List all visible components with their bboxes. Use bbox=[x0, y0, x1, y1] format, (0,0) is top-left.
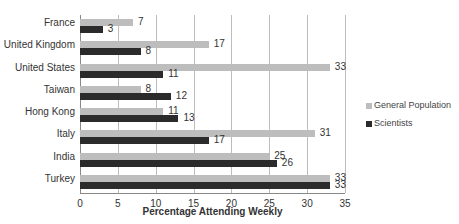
value-label: 17 bbox=[214, 38, 225, 49]
category-label: France bbox=[44, 17, 75, 28]
bar-general-population bbox=[80, 130, 315, 137]
value-label: 8 bbox=[146, 45, 152, 56]
category-label: India bbox=[53, 151, 75, 162]
value-label: 11 bbox=[168, 68, 178, 79]
bar-scientists bbox=[80, 71, 163, 78]
bar-general-population bbox=[80, 175, 330, 182]
value-label: 33 bbox=[335, 61, 346, 72]
category-label: Hong Kong bbox=[25, 106, 75, 117]
bar-scientists bbox=[80, 48, 141, 55]
legend-label: General Population bbox=[374, 100, 451, 110]
value-label: 7 bbox=[138, 16, 144, 27]
legend-item: Scientists bbox=[366, 118, 413, 128]
x-axis-label: Percentage Attending Weekly bbox=[80, 206, 345, 217]
gridline bbox=[345, 15, 346, 193]
bar-scientists bbox=[80, 182, 330, 189]
bar-general-population bbox=[80, 41, 209, 48]
value-label: 31 bbox=[320, 127, 331, 138]
bar-general-population bbox=[80, 108, 163, 115]
value-label: 26 bbox=[282, 157, 293, 168]
bar-scientists bbox=[80, 137, 209, 144]
value-label: 3 bbox=[108, 23, 114, 34]
category-label: United States bbox=[15, 62, 75, 73]
value-label: 12 bbox=[176, 90, 187, 101]
category-label: Italy bbox=[57, 128, 75, 139]
value-label: 33 bbox=[335, 179, 346, 190]
bar-general-population bbox=[80, 86, 141, 93]
legend-swatch-icon bbox=[366, 121, 372, 127]
bar-chart: FranceUnited KingdomUnited StatesTaiwanH… bbox=[0, 0, 459, 224]
bar-scientists bbox=[80, 93, 171, 100]
legend-label: Scientists bbox=[374, 118, 413, 128]
value-label: 13 bbox=[183, 112, 194, 123]
bar-general-population bbox=[80, 19, 133, 26]
value-label: 17 bbox=[214, 134, 225, 145]
bar-scientists bbox=[80, 115, 178, 122]
bar-scientists bbox=[80, 26, 103, 33]
x-axis bbox=[80, 193, 345, 194]
legend-item: General Population bbox=[366, 100, 451, 110]
bar-general-population bbox=[80, 64, 330, 71]
category-label: Taiwan bbox=[44, 84, 75, 95]
category-label: Turkey bbox=[45, 173, 75, 184]
gridline bbox=[307, 15, 308, 193]
bar-scientists bbox=[80, 160, 277, 167]
category-label: United Kingdom bbox=[4, 39, 75, 50]
bar-general-population bbox=[80, 153, 269, 160]
legend-swatch-icon bbox=[366, 103, 372, 109]
